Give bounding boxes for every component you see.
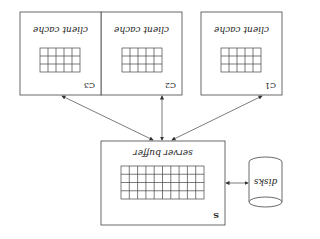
server-label: server buffer — [133, 148, 193, 158]
client-c1-box: C1 client cache — [201, 12, 282, 95]
client-c3-label: client cache — [33, 25, 88, 35]
client-c3-box: C3 client cache — [20, 12, 101, 95]
edge-c3-server — [62, 96, 153, 140]
client-c3-tag: C3 — [84, 81, 95, 90]
client-c1-label: client cache — [214, 25, 269, 35]
server-tag: S — [213, 211, 219, 221]
server-box: S server buffer — [101, 141, 225, 225]
edge-c1-server — [172, 96, 262, 140]
diagram-canvas: C1 client cache C2 client cache — [0, 0, 320, 239]
disks-label: disks — [253, 177, 277, 187]
client-c2-tag: C2 — [165, 81, 176, 90]
client-c2-box: C2 client cache — [101, 12, 182, 95]
client-c2-label: client cache — [114, 25, 169, 35]
client-c1-tag: C1 — [265, 81, 276, 90]
disks-cylinder: disks — [249, 157, 282, 207]
